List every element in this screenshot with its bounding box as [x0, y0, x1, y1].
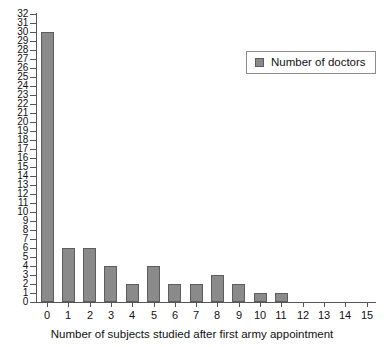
y-axis-tick-label: 12 [2, 189, 28, 199]
y-axis-tick [30, 113, 36, 114]
y-axis-tick [30, 68, 36, 69]
x-axis-tick [175, 302, 176, 307]
y-axis-tick [30, 86, 36, 87]
y-axis-tick [30, 50, 36, 51]
x-axis-tick [154, 302, 155, 307]
bar-9 [232, 284, 245, 302]
y-axis-tick-label: 26 [2, 63, 28, 73]
y-axis-tick-label: 13 [2, 180, 28, 190]
y-axis-tick [30, 185, 36, 186]
y-axis-tick-label: 3 [2, 270, 28, 280]
y-axis-tick-label: 24 [2, 81, 28, 91]
y-axis-tick [30, 284, 36, 285]
y-axis-tick [30, 95, 36, 96]
bar-10 [254, 293, 267, 302]
y-axis-tick [30, 212, 36, 213]
y-axis-tick [30, 122, 36, 123]
x-axis-tick [111, 302, 112, 307]
x-axis-tick [239, 302, 240, 307]
legend-label: Number of doctors [271, 56, 366, 68]
bar-chart: 0123456789101112131415161718192021222324… [0, 0, 384, 347]
x-axis-title: Number of subjects studied after first a… [0, 328, 384, 341]
y-axis-tick-label: 19 [2, 126, 28, 136]
y-axis-tick-label: 23 [2, 90, 28, 100]
y-axis-tick [30, 140, 36, 141]
y-axis-tick-label: 4 [2, 261, 28, 271]
y-axis-tick [30, 176, 36, 177]
x-axis-tick [260, 302, 261, 307]
y-axis-tick-label: 0 [2, 297, 28, 307]
y-axis-tick-label: 20 [2, 117, 28, 127]
bar-5 [147, 266, 160, 302]
y-axis-tick-label: 10 [2, 207, 28, 217]
y-axis-tick [30, 77, 36, 78]
x-axis-tick [68, 302, 69, 307]
x-axis-tick-label: 14 [333, 309, 357, 321]
x-axis-tick [47, 302, 48, 307]
y-axis-tick-label: 30 [2, 27, 28, 37]
y-axis-tick [30, 41, 36, 42]
legend: Number of doctors [246, 51, 376, 74]
y-axis-tick [30, 266, 36, 267]
bar-2 [83, 248, 96, 302]
x-axis-tick [324, 302, 325, 307]
y-axis-tick [30, 239, 36, 240]
y-axis-tick [30, 32, 36, 33]
y-axis-tick-label: 2 [2, 279, 28, 289]
x-axis-tick [196, 302, 197, 307]
y-axis-line [36, 13, 37, 303]
y-axis-tick [30, 149, 36, 150]
x-axis-tick-label: 15 [355, 309, 379, 321]
bar-1 [62, 248, 75, 302]
y-axis-tick-label: 9 [2, 216, 28, 226]
y-axis-tick-label: 29 [2, 36, 28, 46]
y-axis-tick-label: 17 [2, 144, 28, 154]
x-axis-tick [303, 302, 304, 307]
y-axis-tick-label: 6 [2, 243, 28, 253]
y-axis-tick [30, 230, 36, 231]
x-axis-tick [217, 302, 218, 307]
x-axis-tick [367, 302, 368, 307]
y-axis-tick-label: 18 [2, 135, 28, 145]
y-axis-tick [30, 248, 36, 249]
y-axis-tick-label: 16 [2, 153, 28, 163]
bar-11 [275, 293, 288, 302]
x-axis-tick [345, 302, 346, 307]
y-axis-tick-label: 21 [2, 108, 28, 118]
y-axis-tick-label: 27 [2, 54, 28, 64]
y-axis-tick-label: 14 [2, 171, 28, 181]
y-axis-tick-label: 1 [2, 288, 28, 298]
y-axis-tick [30, 221, 36, 222]
y-axis-tick [30, 275, 36, 276]
y-axis-tick [30, 194, 36, 195]
y-axis-tick-label: 31 [2, 18, 28, 28]
y-axis-tick [30, 293, 36, 294]
y-axis-tick-label: 11 [2, 198, 28, 208]
y-axis-tick [30, 203, 36, 204]
x-axis-tick-label: 4 [120, 309, 144, 321]
y-axis-tick-label: 15 [2, 162, 28, 172]
x-axis-tick-label: 8 [205, 309, 229, 321]
y-axis-tick [30, 23, 36, 24]
y-axis-tick [30, 257, 36, 258]
y-axis-tick-label: 7 [2, 234, 28, 244]
x-axis-tick [90, 302, 91, 307]
x-axis-line [36, 302, 376, 303]
y-axis-tick [30, 302, 36, 303]
x-axis-tick [281, 302, 282, 307]
y-axis-tick [30, 167, 36, 168]
bar-0 [41, 32, 54, 302]
y-axis-tick-label: 8 [2, 225, 28, 235]
bar-4 [126, 284, 139, 302]
bar-8 [211, 275, 224, 302]
y-axis-tick-label: 25 [2, 72, 28, 82]
y-axis-tick [30, 131, 36, 132]
bar-3 [104, 266, 117, 302]
x-axis-tick [132, 302, 133, 307]
y-axis-tick [30, 158, 36, 159]
y-axis-tick-label: 32 [2, 9, 28, 19]
y-axis-tick-label: 28 [2, 45, 28, 55]
bar-6 [168, 284, 181, 302]
y-axis-tick [30, 59, 36, 60]
y-axis-tick-label: 22 [2, 99, 28, 109]
